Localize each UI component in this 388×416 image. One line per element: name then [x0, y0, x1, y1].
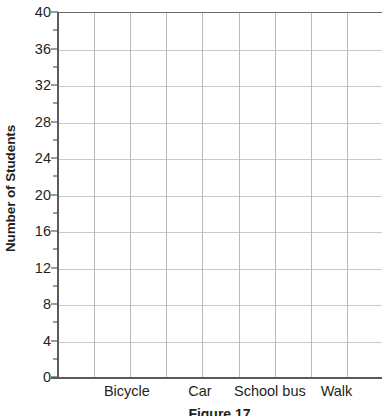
vertical-gridline-2: [130, 13, 131, 377]
y-tick-label-0: 0: [22, 370, 51, 385]
x-tick-label-walk: Walk: [321, 381, 353, 401]
figure-caption: Figure 17: [57, 405, 382, 416]
horizontal-gridline-28: [58, 123, 382, 124]
y-tick-label-4: 4: [22, 333, 51, 348]
y-tick-label-12: 12: [22, 260, 51, 275]
y-tick-label-24: 24: [22, 151, 51, 166]
horizontal-gridline-8: [58, 305, 382, 306]
vertical-gridline-6: [275, 13, 276, 377]
plot-area: [57, 12, 382, 377]
x-axis-tick-labels: BicycleCarSchool busWalk: [57, 381, 382, 403]
horizontal-gridline-12: [58, 269, 382, 270]
y-tick-label-8: 8: [22, 297, 51, 312]
y-tick-label-20: 20: [22, 187, 51, 202]
y-axis-line: [57, 12, 59, 379]
x-axis-line: [51, 377, 382, 379]
y-tick-label-40: 40: [22, 5, 51, 20]
horizontal-gridline-32: [58, 86, 382, 87]
y-axis-title: Number of Students: [0, 0, 22, 377]
y-tick-label-36: 36: [22, 41, 51, 56]
vertical-gridline-3: [166, 13, 167, 377]
horizontal-gridline-20: [58, 196, 382, 197]
horizontal-gridline-36: [58, 50, 382, 51]
vertical-gridline-7: [311, 13, 312, 377]
horizontal-gridline-24: [58, 159, 382, 160]
vertical-gridline-4: [202, 13, 203, 377]
x-tick-label-bicycle: Bicycle: [104, 381, 150, 401]
vertical-gridline-5: [239, 13, 240, 377]
bar-chart-figure: Number of Students 0481216202428323640 B…: [0, 0, 388, 416]
horizontal-gridline-16: [58, 232, 382, 233]
y-tick-label-16: 16: [22, 224, 51, 239]
horizontal-gridline-4: [58, 342, 382, 343]
y-axis-title-label: Number of Students: [4, 125, 19, 252]
y-tick-label-32: 32: [22, 78, 51, 93]
x-tick-label-school-bus: School bus: [234, 381, 306, 401]
x-tick-label-car: Car: [188, 381, 211, 401]
y-tick-label-28: 28: [22, 114, 51, 129]
y-axis-tick-labels: 0481216202428323640: [22, 0, 51, 390]
vertical-gridline-8: [347, 13, 348, 377]
vertical-gridline-1: [94, 13, 95, 377]
